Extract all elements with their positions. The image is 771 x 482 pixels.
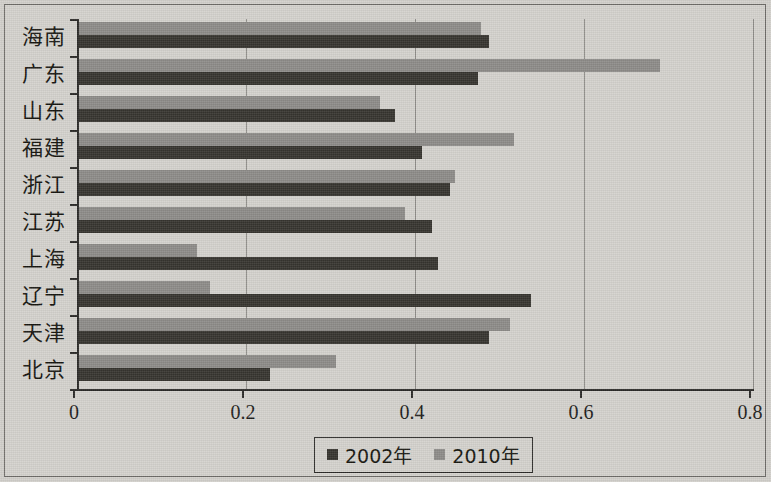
x-axis-label-0: 0 bbox=[69, 401, 79, 424]
bar-2010-北京 bbox=[77, 355, 336, 368]
x-axis-line bbox=[77, 389, 754, 391]
legend-swatch-2002 bbox=[327, 449, 338, 460]
y-axis-tick bbox=[70, 130, 77, 132]
bar-group-广东 bbox=[77, 56, 753, 93]
y-axis-tick bbox=[70, 352, 77, 354]
y-axis-tick bbox=[70, 204, 77, 206]
bar-2002-海南 bbox=[77, 35, 489, 48]
chart-legend: 2002年 2010年 bbox=[314, 437, 533, 473]
legend-label-2010: 2010年 bbox=[452, 441, 519, 468]
bar-2002-北京 bbox=[77, 368, 270, 381]
y-axis-label-江苏: 江苏 bbox=[22, 212, 65, 233]
x-axis-tick bbox=[411, 390, 413, 398]
bar-2002-浙江 bbox=[77, 183, 450, 196]
bar-2010-辽宁 bbox=[77, 281, 210, 294]
y-axis-category-labels: 海南广东山东福建浙江江苏上海辽宁天津北京 bbox=[5, 19, 71, 389]
x-axis-tick bbox=[73, 390, 75, 398]
y-axis-line bbox=[77, 19, 79, 390]
bar-group-海南 bbox=[77, 19, 753, 56]
bar-2010-天津 bbox=[77, 318, 510, 331]
y-axis-tick bbox=[70, 56, 77, 58]
bar-2010-山东 bbox=[77, 96, 380, 109]
y-axis-tick bbox=[70, 167, 77, 169]
plot-area bbox=[77, 19, 753, 389]
bar-2010-福建 bbox=[77, 133, 514, 146]
bar-2010-江苏 bbox=[77, 207, 405, 220]
bar-group-江苏 bbox=[77, 204, 753, 241]
y-axis-label-天津: 天津 bbox=[22, 323, 65, 344]
bar-2002-上海 bbox=[77, 257, 438, 270]
bar-group-上海 bbox=[77, 241, 753, 278]
gridline bbox=[753, 19, 754, 389]
bar-2002-广东 bbox=[77, 72, 478, 85]
bar-2002-辽宁 bbox=[77, 294, 531, 307]
y-axis-label-辽宁: 辽宁 bbox=[22, 286, 65, 307]
bar-group-天津 bbox=[77, 315, 753, 352]
x-axis-tick bbox=[580, 390, 582, 398]
bar-group-山东 bbox=[77, 93, 753, 130]
bar-2010-海南 bbox=[77, 22, 481, 35]
bar-2010-上海 bbox=[77, 244, 197, 257]
bar-group-北京 bbox=[77, 352, 753, 389]
y-axis-label-浙江: 浙江 bbox=[22, 175, 65, 196]
bar-2002-福建 bbox=[77, 146, 422, 159]
x-axis-tick bbox=[749, 390, 751, 398]
bar-2002-江苏 bbox=[77, 220, 432, 233]
y-axis-label-北京: 北京 bbox=[22, 360, 65, 381]
y-axis-label-上海: 上海 bbox=[22, 249, 65, 270]
bar-2002-天津 bbox=[77, 331, 489, 344]
bar-group-福建 bbox=[77, 130, 753, 167]
x-axis-label-0.6: 0.6 bbox=[569, 401, 594, 424]
y-axis-tick bbox=[70, 19, 77, 21]
x-axis-label-0.8: 0.8 bbox=[738, 401, 763, 424]
bar-2002-山东 bbox=[77, 109, 395, 122]
legend-swatch-2010 bbox=[434, 449, 445, 460]
bar-2010-广东 bbox=[77, 59, 660, 72]
x-axis-label-0.4: 0.4 bbox=[400, 401, 425, 424]
y-axis-tick bbox=[70, 278, 77, 280]
chart-page: 海南广东山东福建浙江江苏上海辽宁天津北京 00.20.40.60.8 2002年… bbox=[0, 0, 771, 482]
legend-item-2010: 2010年 bbox=[434, 441, 519, 468]
chart-frame: 海南广东山东福建浙江江苏上海辽宁天津北京 00.20.40.60.8 2002年… bbox=[4, 4, 766, 477]
legend-item-2002: 2002年 bbox=[327, 441, 412, 468]
y-axis-tick bbox=[70, 241, 77, 243]
bar-group-辽宁 bbox=[77, 278, 753, 315]
legend-label-2002: 2002年 bbox=[345, 441, 412, 468]
x-axis-tick bbox=[242, 390, 244, 398]
y-axis-label-广东: 广东 bbox=[22, 64, 65, 85]
y-axis-tick bbox=[70, 93, 77, 95]
x-axis-label-0.2: 0.2 bbox=[231, 401, 256, 424]
y-axis-label-海南: 海南 bbox=[22, 27, 65, 48]
bar-2010-浙江 bbox=[77, 170, 455, 183]
y-axis-tick bbox=[70, 315, 77, 317]
bar-group-浙江 bbox=[77, 167, 753, 204]
y-axis-label-山东: 山东 bbox=[22, 101, 65, 122]
y-axis-label-福建: 福建 bbox=[22, 138, 65, 159]
